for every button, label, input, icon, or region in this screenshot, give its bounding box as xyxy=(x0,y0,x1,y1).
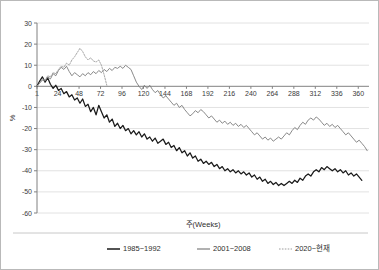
x-axis-ticks-group: 1244872961201441681922162402642883123363… xyxy=(35,86,364,97)
series-line-2020~현재 xyxy=(37,48,107,86)
x-tick-label-48: 48 xyxy=(75,90,83,97)
y-tick-label-10: 10 xyxy=(24,62,32,69)
y-tick-label--60: -60 xyxy=(22,210,32,217)
y-tick-label-30: 30 xyxy=(24,20,32,27)
legend-label-1985~1992: 1985~1992 xyxy=(123,244,161,253)
x-tick-label-96: 96 xyxy=(118,90,126,97)
legend-label-2001~2008: 2001~2008 xyxy=(213,244,251,253)
y-tick-label--40: -40 xyxy=(22,167,32,174)
y-axis-title: % xyxy=(8,114,17,121)
y-tick-label-20: 20 xyxy=(24,41,32,48)
x-tick-label-336: 336 xyxy=(331,90,343,97)
legend-label-2020~현재: 2020~현재 xyxy=(295,244,330,253)
x-tick-label-264: 264 xyxy=(267,90,279,97)
x-tick-label-312: 312 xyxy=(309,90,321,97)
x-tick-label-288: 288 xyxy=(288,90,300,97)
x-tick-label-168: 168 xyxy=(181,90,193,97)
chart-figure: 3020100-10-20-30-40-50-60 12448729612014… xyxy=(0,0,379,270)
chart-legend: 1985~19922001~20082020~현재 xyxy=(107,244,330,253)
x-axis-title: 주(Weeks) xyxy=(186,220,221,229)
chart-svg: 3020100-10-20-30-40-50-60 12448729612014… xyxy=(1,1,379,270)
x-tick-label-24: 24 xyxy=(54,90,62,97)
y-tick-label--20: -20 xyxy=(22,125,32,132)
series-line-2001~2008 xyxy=(37,65,367,151)
y-tick-label--50: -50 xyxy=(22,188,32,195)
x-tick-label-120: 120 xyxy=(138,90,150,97)
y-tick-label--30: -30 xyxy=(22,146,32,153)
x-tick-label-240: 240 xyxy=(245,90,257,97)
chart-plot-area: 3020100-10-20-30-40-50-60 12448729612014… xyxy=(1,1,379,270)
gridlines-group xyxy=(37,23,369,213)
y-axis-ticks-group: 3020100-10-20-30-40-50-60 xyxy=(22,20,37,217)
x-tick-label-192: 192 xyxy=(202,90,214,97)
y-tick-label-0: 0 xyxy=(28,83,32,90)
series-group xyxy=(37,48,367,185)
y-tick-label--10: -10 xyxy=(22,104,32,111)
x-tick-label-72: 72 xyxy=(97,90,105,97)
x-tick-label-360: 360 xyxy=(352,90,364,97)
x-tick-label-216: 216 xyxy=(224,90,236,97)
